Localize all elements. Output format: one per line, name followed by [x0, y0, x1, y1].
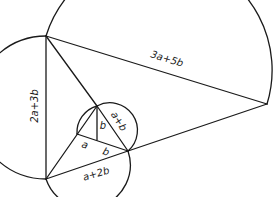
label-inner-vertical: b	[100, 120, 106, 131]
line-right-to-c	[128, 104, 267, 151]
label-inner-left-segment: a	[80, 138, 89, 150]
label-inner-hypotenuse: a+b	[109, 109, 129, 133]
line-top-hypotenuse	[46, 36, 267, 104]
label-left-side: 2a+3b	[29, 89, 40, 123]
label-bottom-side: a+2b	[81, 165, 110, 183]
line-b-to-d	[46, 106, 97, 179]
line-a-to-d	[46, 36, 97, 106]
diagram-canvas: 3a+5b 2a+3b a+2b a+b b a b	[0, 0, 275, 197]
label-top-hypotenuse: 3a+5b	[149, 48, 184, 68]
label-inner-right-segment: b	[101, 145, 110, 157]
